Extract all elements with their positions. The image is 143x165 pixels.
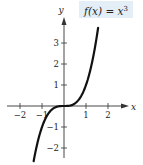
cubic-function-graph: f(x) = x3 xy−2−112−2−1123 (0, 0, 143, 165)
y-tick-label: 1 (54, 80, 59, 90)
y-axis-label: y (57, 5, 64, 15)
y-tick-label: 2 (54, 59, 59, 69)
function-label-text: f(x) = x (84, 5, 123, 17)
y-axis-arrow-icon (62, 17, 67, 25)
x-axis-label: x (131, 102, 136, 112)
y-tick-label: 3 (54, 38, 59, 48)
x-tick-label: −2 (14, 110, 27, 120)
function-label-exponent: 3 (123, 5, 127, 13)
y-tick-label: −1 (46, 122, 59, 132)
x-tick-label: 1 (83, 110, 88, 120)
x-axis-arrow-icon (121, 104, 129, 109)
cubic-curve (34, 28, 98, 161)
y-tick-label: −2 (46, 143, 59, 153)
plot-area: xy−2−112−2−1123 (0, 0, 143, 165)
function-label: f(x) = x3 (79, 1, 133, 18)
x-tick-label: 2 (105, 110, 110, 120)
